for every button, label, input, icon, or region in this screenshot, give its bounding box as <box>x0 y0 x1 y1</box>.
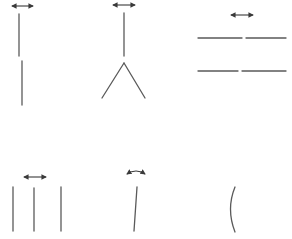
panel-4 <box>13 177 61 231</box>
line-segment <box>102 63 124 98</box>
panel-1 <box>12 6 33 105</box>
panel-2 <box>102 5 145 98</box>
stimulus-figure <box>0 0 292 239</box>
panel-6 <box>231 187 236 232</box>
panel-3 <box>198 15 286 71</box>
curved-line <box>231 187 236 232</box>
line-segment <box>124 63 145 98</box>
curved-double-arrow-icon <box>127 171 145 174</box>
panel-5 <box>127 171 145 231</box>
line-segment <box>134 187 137 231</box>
